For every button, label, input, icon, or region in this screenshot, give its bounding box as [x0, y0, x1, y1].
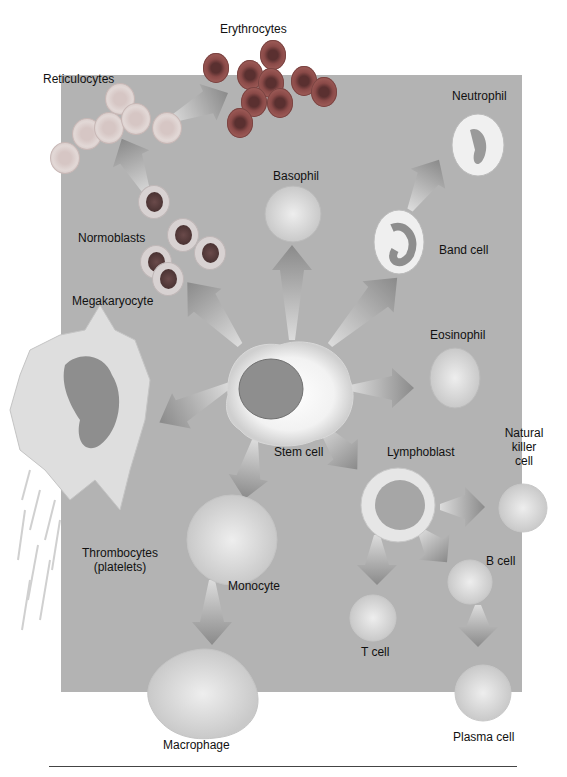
label-reticulocytes: Reticulocytes	[43, 72, 114, 86]
natural-killer-cell-cell	[499, 484, 547, 532]
arrow-band-cell-to-neutrophil	[393, 150, 457, 220]
basophil-cell	[265, 186, 321, 242]
label-band-cell: Band cell	[439, 243, 488, 257]
stem-cell	[226, 342, 353, 446]
label-thrombocytes-line2: (platelets)	[78, 560, 162, 574]
arrow-stem-to-monocyte	[225, 437, 275, 503]
arrow-stem-to-eosinophil	[350, 368, 414, 408]
label-eosinophil: Eosinophil	[430, 328, 485, 342]
plasma-cell-cell	[455, 665, 511, 721]
label-basophil: Basophil	[273, 169, 319, 183]
label-normoblasts: Normoblasts	[78, 231, 145, 245]
megakaryocyte	[10, 305, 150, 510]
label-neutrophil: Neutrophil	[452, 89, 507, 103]
monocyte-cell	[187, 495, 277, 585]
label-t-cell: T cell	[361, 645, 389, 659]
label-macrophage: Macrophage	[163, 738, 230, 752]
label-nk-line1: Natural	[500, 426, 548, 440]
label-stem-cell: Stem cell	[274, 445, 323, 459]
thrombocytes	[18, 470, 60, 630]
arrow-stem-to-basophil	[272, 245, 312, 340]
bottom-rule	[49, 766, 517, 767]
label-nk-line3: cell	[500, 454, 548, 468]
label-thrombocytes: Thrombocytes (platelets)	[78, 546, 162, 574]
label-monocyte: Monocyte	[228, 579, 280, 593]
eosinophil-cell	[430, 348, 480, 408]
label-b-cell: B cell	[486, 554, 515, 568]
label-lymphoblast: Lymphoblast	[387, 445, 455, 459]
arrow-lymphoblast-to-t-cell	[357, 535, 397, 585]
arrow-b-cell-to-plasma-cell	[458, 605, 498, 647]
label-erythrocytes: Erythrocytes	[220, 22, 287, 36]
t-cell-cell	[350, 595, 396, 641]
label-plasma-cell: Plasma cell	[453, 730, 514, 744]
arrow-lymphoblast-to-nk-cell	[440, 487, 485, 527]
label-megakaryocyte: Megakaryocyte	[72, 294, 153, 308]
arrow-stem-to-band-cell	[314, 262, 412, 360]
macrophage-cell	[148, 649, 258, 739]
label-nk-line2: killer	[500, 440, 548, 454]
arrow-monocyte-to-macrophage	[192, 580, 232, 645]
label-natural-killer-cell: Natural killer cell	[500, 426, 548, 468]
label-thrombocytes-line1: Thrombocytes	[78, 546, 162, 560]
